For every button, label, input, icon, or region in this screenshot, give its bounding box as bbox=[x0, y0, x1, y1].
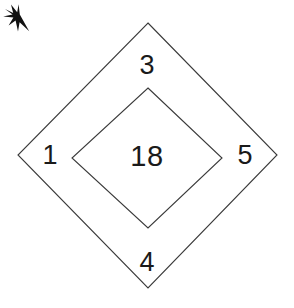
diamond-label-center: 18 bbox=[0, 142, 294, 171]
diamond-label-bottom: 4 bbox=[0, 249, 294, 276]
diamond-figure: 3 1 5 4 18 bbox=[0, 0, 294, 308]
diamond-label-top: 3 bbox=[0, 52, 294, 79]
